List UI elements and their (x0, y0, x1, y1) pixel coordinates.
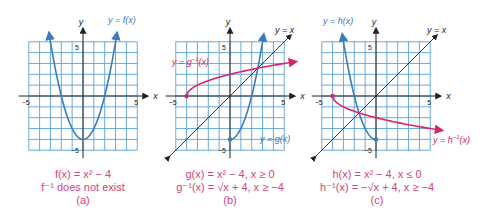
label-y-g-inverse: y = g−1(x) (171, 56, 209, 67)
caption-b-line1: g(x) = x² − 4, x ≥ 0 (160, 168, 300, 181)
curve-h-endpoint (374, 137, 378, 141)
caption-c: h(x) = x² − 4, x ≤ 0 h⁻¹(x) = −√x + 4, x… (302, 168, 452, 207)
tick-label-x-pos: 5 (281, 99, 285, 106)
y-axis-label: y (371, 17, 377, 27)
caption-b: g(x) = x² − 4, x ≥ 0 g⁻¹(x) = √x + 4, x … (160, 168, 300, 207)
caption-c-line2: h⁻¹(x) = −√x + 4, x ≥ −4 (302, 181, 452, 194)
label-y-h-inverse: y = h−1(x) (432, 134, 470, 145)
tick-label-x-neg: −5 (169, 99, 177, 106)
caption-a: f(x) = x² − 4 f⁻¹ does not exist (a) (23, 168, 143, 207)
tick-label-y-neg: −5 (218, 147, 226, 154)
x-axis-label: x (299, 91, 305, 101)
caption-b-label: (b) (160, 194, 300, 207)
label-y-equals-x: y = x (274, 25, 295, 35)
y-axis-label: y (78, 17, 84, 27)
curve-f-right (83, 34, 117, 140)
tick-label-y-pos: 5 (222, 44, 226, 51)
tick-label-x-neg: −5 (315, 99, 323, 106)
caption-b-line2: g⁻¹(x) = √x + 4, x ≥ −4 (160, 181, 300, 194)
y-axis-label: y (225, 17, 231, 27)
caption-c-line1: h(x) = x² − 4, x ≤ 0 (302, 168, 452, 181)
curve-h-inverse-endpoint (330, 94, 334, 98)
label-y-equals-x: y = x (426, 25, 447, 35)
caption-a-line1: f(x) = x² − 4 (23, 168, 143, 181)
tick-label-y-pos: 5 (75, 44, 79, 51)
caption-a-label: (a) (23, 194, 143, 207)
curve-g-endpoint (228, 137, 232, 141)
tick-label-y-neg: −5 (364, 147, 372, 154)
tick-label-x-pos: 5 (134, 99, 138, 106)
caption-a-line2: f⁻¹ does not exist (23, 181, 143, 194)
tick-label-x-neg: −5 (22, 99, 30, 106)
label-y-g-x: y = g(x) (259, 134, 290, 144)
curve-g-inverse-endpoint (184, 94, 188, 98)
tick-label-y-pos: 5 (368, 44, 372, 51)
tick-label-x-pos: 5 (427, 99, 431, 106)
label-y-h-x: y = h(x) (322, 16, 353, 26)
curve-g (230, 35, 264, 139)
curve-h (342, 35, 376, 139)
x-axis-label: x (152, 91, 158, 101)
caption-c-label: (c) (302, 194, 452, 207)
tick-label-y-neg: −5 (71, 147, 79, 154)
x-axis-label: x (445, 91, 451, 101)
label-y-f-x: y = f(x) (107, 15, 136, 25)
